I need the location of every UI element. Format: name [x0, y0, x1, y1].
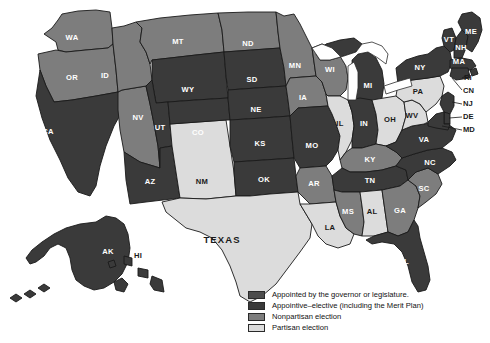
- state-label-PA: PA: [413, 87, 424, 96]
- state-label-NY: NY: [414, 63, 425, 72]
- legend-swatch-appointive-elective: [248, 302, 265, 310]
- state-label-IA: IA: [299, 93, 307, 102]
- state-label-FL: FL: [399, 257, 409, 266]
- legend-swatch-nonpartisan: [248, 313, 265, 321]
- state-AK[interactable]: [26, 216, 130, 290]
- state-label-AK: AK: [102, 247, 114, 256]
- legend-item-partisan[interactable]: Partisan election: [248, 323, 480, 334]
- state-label-TN: TN: [365, 176, 376, 185]
- state-WA[interactable]: [44, 10, 113, 52]
- state-label-NE: NE: [250, 105, 261, 114]
- state-label-VA: VA: [419, 135, 430, 144]
- state-label-IN: IN: [360, 119, 368, 128]
- state-label-MD: MD: [463, 125, 475, 134]
- state-label-CN: CN: [463, 86, 474, 95]
- state-label-NH: NH: [455, 43, 467, 52]
- legend-item-nonpartisan[interactable]: Nonpartisan election: [248, 311, 480, 322]
- us-judicial-selection-map: WA OR CA NV ID MT WY UT AZ NM CO ND SD N…: [0, 0, 490, 343]
- state-label-NM: NM: [196, 177, 208, 186]
- map-legend: Appointed by the governor or legislature…: [248, 289, 480, 334]
- state-label-ND: ND: [242, 39, 254, 48]
- state-label-KY: KY: [364, 155, 375, 164]
- state-label-CA: CA: [42, 127, 54, 136]
- state-label-WI: WI: [325, 65, 335, 74]
- state-label-DE: DE: [463, 112, 474, 121]
- state-label-NV: NV: [132, 113, 144, 122]
- state-NE[interactable]: [228, 86, 290, 120]
- legend-label-partisan: Partisan election: [272, 324, 328, 332]
- legend-label-appointed: Appointed by the governor or legislature…: [272, 291, 409, 299]
- state-label-KS: KS: [254, 139, 265, 148]
- state-label-MN: MN: [289, 61, 301, 70]
- state-label-SD: SD: [246, 75, 257, 84]
- state-label-WA: WA: [66, 33, 79, 42]
- state-label-CO: CO: [192, 128, 204, 137]
- state-label-MA: MA: [453, 57, 466, 66]
- state-label-RI: RI: [464, 73, 472, 82]
- state-label-MI: MI: [363, 81, 372, 90]
- state-label-AL: AL: [367, 207, 378, 216]
- state-TX[interactable]: [162, 192, 312, 302]
- state-label-NC: NC: [424, 158, 436, 167]
- state-label-GA: GA: [394, 206, 406, 215]
- state-label-LA: LA: [325, 223, 336, 232]
- state-label-ME: ME: [465, 27, 477, 36]
- legend-swatch-appointed: [248, 291, 265, 299]
- legend-label-nonpartisan: Nonpartisan election: [272, 313, 341, 321]
- state-label-WV: WV: [406, 111, 419, 120]
- state-label-UT: UT: [155, 123, 166, 132]
- state-label-OK: OK: [258, 175, 270, 184]
- state-label-AR: AR: [308, 179, 320, 188]
- state-label-AZ: AZ: [145, 177, 156, 186]
- state-AK-aleutians[interactable]: [10, 284, 50, 302]
- state-label-OR: OR: [66, 73, 78, 82]
- state-label-TX: TEXAS: [203, 234, 240, 245]
- state-label-NJ: NJ: [463, 99, 473, 108]
- state-CO[interactable]: [168, 98, 230, 124]
- lake-michigan-water: [348, 62, 358, 100]
- legend-swatch-partisan: [248, 324, 265, 332]
- legend-item-appointive-elective[interactable]: Appointive–elective (including the Merit…: [248, 300, 480, 311]
- state-label-MS: MS: [342, 207, 354, 216]
- state-label-OH: OH: [384, 115, 396, 124]
- state-WY[interactable]: [152, 52, 228, 103]
- legend-label-appointive-elective: Appointive–elective (including the Merit…: [272, 302, 424, 310]
- state-label-MO: MO: [306, 141, 319, 150]
- legend-item-appointed[interactable]: Appointed by the governor or legislature…: [248, 289, 480, 300]
- state-label-MT: MT: [172, 37, 184, 46]
- state-label-HI: HI: [134, 251, 142, 260]
- state-label-VT: VT: [444, 35, 454, 44]
- state-label-WY: WY: [182, 85, 195, 94]
- state-label-ID: ID: [101, 71, 109, 80]
- callout-line-DE: [449, 117, 462, 118]
- state-label-SC: SC: [418, 184, 429, 193]
- state-label-IL: IL: [336, 119, 343, 128]
